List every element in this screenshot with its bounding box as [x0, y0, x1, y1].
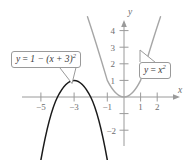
y-tick-label--2: −2: [106, 126, 116, 136]
callout-right-equation: y = x2: [144, 66, 166, 76]
x-tick-label--1: −1: [103, 102, 113, 112]
x-axis-name: x: [177, 85, 183, 95]
callout-label-right: y = x2: [139, 62, 171, 79]
y-tick-label-4: 4: [111, 26, 116, 36]
callout-label-left: y = 1 − (x + 3)2: [11, 51, 81, 68]
curve-one-minus-x-plus-three-squared: [41, 80, 107, 160]
y-axis-name: y: [127, 7, 133, 17]
callout-right-tail: [140, 50, 156, 63]
x-tick-label-1: 1: [138, 102, 143, 112]
y-tick-label-1: 1: [111, 76, 116, 86]
y-tick-label-2: 2: [111, 59, 116, 69]
x-tick-label--5: −5: [36, 102, 46, 112]
callout-left-equation: y = 1 − (x + 3)2: [16, 55, 76, 65]
y-axis: [121, 20, 127, 146]
graph-figure: −5 −3 −1 1 2 4 3 2 1 −2 x y y = 1: [0, 0, 190, 160]
coordinate-plot: −5 −3 −1 1 2 4 3 2 1 −2 x y: [0, 0, 190, 160]
x-tick-label--3: −3: [69, 102, 79, 112]
x-axis: [22, 94, 180, 100]
y-tick-label-3: 3: [111, 43, 116, 53]
x-tick-label-2: 2: [155, 102, 160, 112]
